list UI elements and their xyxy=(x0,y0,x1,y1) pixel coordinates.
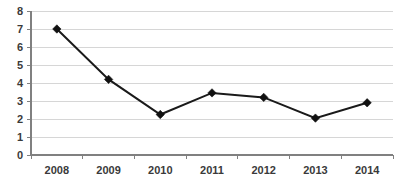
x-tick-label: 2009 xyxy=(96,164,120,176)
y-tick-label: 6 xyxy=(17,41,23,53)
y-tick-label: 3 xyxy=(17,95,23,107)
y-tick-label: 7 xyxy=(17,23,23,35)
x-tick-label: 2011 xyxy=(200,164,224,176)
x-tick-label: 2013 xyxy=(303,164,327,176)
y-tick-label: 1 xyxy=(17,131,23,143)
x-tick-label: 2008 xyxy=(45,164,69,176)
y-tick-label: 4 xyxy=(17,77,24,89)
x-tick-label: 2012 xyxy=(251,164,275,176)
y-tick-labels-group: 012345678 xyxy=(17,5,24,161)
y-tick-label: 8 xyxy=(17,5,23,17)
y-tick-label: 0 xyxy=(17,149,23,161)
chart-canvas: 012345678 2008200920102011201220132014 xyxy=(0,0,397,185)
y-tick-label: 2 xyxy=(17,113,23,125)
x-tick-label: 2014 xyxy=(355,164,380,176)
x-tick-label: 2010 xyxy=(148,164,172,176)
y-tick-label: 5 xyxy=(17,59,23,71)
line-chart: 012345678 2008200920102011201220132014 xyxy=(0,0,397,185)
